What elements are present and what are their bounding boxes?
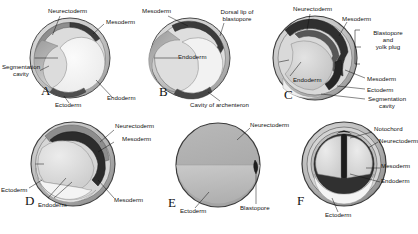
- label-e-neurectoderm: Neurectoderm: [250, 121, 289, 128]
- label-b-endoderm: Endoderm: [178, 53, 207, 60]
- label-f-neurectoderm: Neurectoderm: [379, 137, 418, 144]
- panel-b: Mesoderm Dorsal lip of blastopore Endode…: [128, 0, 263, 110]
- panel-a: Neurectoderm Mesoderm Segmentation cavit…: [0, 0, 140, 110]
- panel-letter-c: C: [284, 88, 293, 101]
- label-d-mesoderm-right: Mesoderm: [114, 196, 143, 203]
- label-a-neurectoderm: Neurectoderm: [48, 7, 87, 14]
- label-f-notochord: Notochord: [374, 125, 403, 132]
- clipped-caption-text: —: [0, 225, 416, 227]
- label-c-neurectoderm: Neurectoderm: [293, 5, 332, 12]
- label-d-mesoderm-top: Mesoderm: [122, 135, 151, 142]
- label-f-mesoderm: Mesoderm: [381, 162, 410, 169]
- label-a-segmentation-cavity: Segmentation cavity: [1, 63, 41, 77]
- label-b-archenteron: Cavity of archenteron: [190, 101, 249, 108]
- clipped-caption-strip: —: [0, 225, 416, 234]
- label-d-neurectoderm: Neurectoderm: [115, 122, 154, 129]
- label-d-endoderm: Endoderm: [38, 201, 67, 208]
- label-c-ectoderm: Ectoderm: [367, 86, 393, 93]
- panel-letter-f: F: [297, 194, 304, 207]
- label-c-endoderm: Endoderm: [293, 76, 322, 83]
- panel-c-drawing: [255, 0, 416, 110]
- panel-letter-a: A: [41, 84, 50, 97]
- label-a-ectoderm: Ectoderm: [55, 101, 81, 108]
- label-c-mesoderm-top: Mesoderm: [342, 15, 371, 22]
- panel-f: Notochord Neurectoderm Mesoderm Endoderm…: [288, 112, 416, 226]
- label-b-mesoderm: Mesoderm: [142, 7, 171, 14]
- label-d-ectoderm: Ectoderm: [1, 186, 27, 193]
- panel-letter-e: E: [168, 196, 176, 209]
- label-e-ectoderm: Ectoderm: [180, 207, 206, 214]
- panel-d: Neurectoderm Mesoderm Ectoderm Endoderm …: [10, 112, 155, 226]
- panel-letter-b: B: [159, 85, 168, 98]
- label-c-segmentation-cavity: Segmentation cavity: [365, 95, 409, 109]
- panel-letter-d: D: [25, 194, 34, 207]
- label-f-endoderm: Endoderm: [381, 177, 410, 184]
- label-f-ectoderm: Ectoderm: [325, 211, 351, 218]
- label-c-blastopore-yolk-plug: Blastopore and yolk plug: [362, 29, 414, 51]
- label-e-blastopore: Blastopore: [240, 204, 270, 211]
- label-c-mesoderm-right: Mesoderm: [367, 75, 396, 82]
- panel-e: Neurectoderm Ectoderm Blastopore E: [155, 112, 290, 226]
- panel-c: Neurectoderm Mesoderm Blastopore and yol…: [255, 0, 416, 110]
